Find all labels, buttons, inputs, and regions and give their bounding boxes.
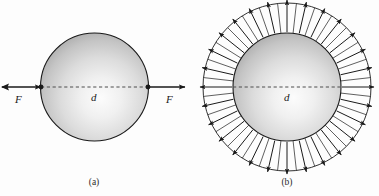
radial-arrow [268,141,275,172]
radial-separator [278,141,281,171]
figure-container: F F d d (a) (b) [0,0,379,196]
radial-arrow [219,33,244,53]
radial-separator [204,93,234,96]
radial-arrow [341,99,372,106]
radial-separator [204,78,234,81]
diameter-label-b: d [284,92,290,103]
radial-arrow [341,68,372,75]
panel-caption-b: (b) [273,178,301,188]
force-label-left: F [15,94,22,105]
radial-separator [341,93,371,96]
radial-arrow [202,99,233,106]
radial-separator [325,125,346,146]
contact-point-left [39,85,44,90]
radial-separator [316,133,332,158]
radial-arrow [268,2,275,33]
radial-separator [278,4,281,34]
panel-a [1,33,185,141]
radial-arrow [330,121,355,141]
radial-separator [242,16,258,41]
figure-canvas [0,0,379,196]
radial-separator [228,125,249,146]
radial-arrow [321,130,341,155]
panel-b [200,0,374,174]
radial-arrow [330,33,355,53]
panel-caption-a: (a) [80,178,108,188]
radial-separator [316,16,332,41]
radial-arrow [299,2,306,33]
radial-separator [333,116,358,132]
radial-separator [216,116,241,132]
diameter-label-a: d [91,92,97,103]
radial-arrow [233,19,253,44]
radial-arrow [233,130,253,155]
radial-separator [293,4,296,34]
contact-point-right [146,85,151,90]
radial-arrow [219,121,244,141]
radial-separator [242,133,258,158]
radial-separator [293,141,296,171]
radial-separator [341,78,371,81]
radial-arrow [321,19,341,44]
radial-separator [333,42,358,58]
force-label-right: F [166,94,173,105]
radial-separator [228,28,249,49]
radial-separator [216,42,241,58]
radial-separator [325,28,346,49]
radial-arrow [299,141,306,172]
radial-arrow [202,68,233,75]
